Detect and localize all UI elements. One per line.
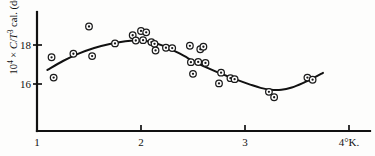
data-point-center (171, 47, 173, 49)
x-tick-label: 2 (138, 137, 144, 148)
x-tick-label: 1 (34, 137, 40, 148)
plot-canvas (0, 0, 375, 156)
fitted-curve (47, 41, 323, 91)
data-point-center (50, 56, 52, 58)
data-point-center (153, 43, 155, 45)
data-point-center (88, 25, 90, 27)
data-point-center (202, 46, 204, 48)
data-point-center (165, 47, 167, 49)
data-point-center (190, 61, 192, 63)
axes-group (37, 12, 370, 131)
data-point-center (197, 61, 199, 63)
y-tick-label: 16 (13, 79, 31, 90)
figure-panel: 104 × C/T3 cal. (degree)−4 1234°K. 1618 (0, 0, 375, 156)
data-point-center (142, 39, 144, 41)
data-point-center (220, 72, 222, 74)
x-tick-label: 4°K. (339, 137, 360, 148)
data-point-center (311, 79, 313, 81)
data-point-center (218, 82, 220, 84)
data-point-center (132, 34, 134, 36)
data-point-center (91, 55, 93, 57)
data-point-center (204, 62, 206, 64)
data-point-center (192, 73, 194, 75)
data-point-center (306, 76, 308, 78)
data-point-center (145, 31, 147, 33)
data-point-center (268, 91, 270, 93)
y-tick-label: 18 (13, 40, 31, 51)
data-point-center (114, 42, 116, 44)
data-point-center (72, 53, 74, 55)
data-point-center (135, 39, 137, 41)
data-point-center (52, 76, 54, 78)
data-point-center (233, 78, 235, 80)
data-point-center (273, 96, 275, 98)
data-point-markers (48, 23, 316, 100)
data-point-center (140, 30, 142, 32)
data-point-center (189, 45, 191, 47)
data-point-center (154, 49, 156, 51)
x-tick-label: 3 (242, 137, 248, 148)
